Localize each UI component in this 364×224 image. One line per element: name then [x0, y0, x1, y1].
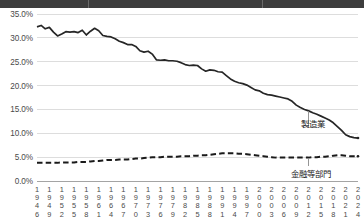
series-lines [37, 25, 359, 162]
x-axis-tick-label: 1982 [180, 186, 190, 219]
x-axis-tick-label: 2018 [328, 186, 338, 219]
chart-container: 0.0%5.0%10.0%15.0%20.0%25.0%30.0%35.0% 1… [0, 0, 364, 224]
x-axis-tick-label: 1967 [118, 186, 128, 219]
x-axis-tick-label: 2000 [254, 186, 264, 219]
x-axis-tick-label: 1952 [57, 186, 67, 219]
x-axis-tick-label: 1946 [32, 186, 42, 219]
x-axis-tick-label: 1970 [131, 186, 141, 219]
x-axis-tick-label: 2021 [341, 186, 351, 219]
x-axis-tick-label: 2015 [316, 186, 326, 219]
annotation-finance: 金融等部門 [291, 167, 331, 179]
x-axis-tick-label: 1958 [81, 186, 91, 219]
x-axis-tick-label: 2024 [353, 186, 363, 219]
x-axis-tick-label: 1997 [242, 186, 252, 219]
series-line-finance [37, 153, 358, 163]
x-axis-tick-label: 1994 [230, 186, 240, 219]
x-axis-tick-label: 2003 [267, 186, 277, 219]
series-endpoint-finance [357, 155, 360, 158]
x-axis-tick-labels: 1946194919521955195819611964196719701973… [0, 186, 364, 224]
x-axis-tick-label: 1949 [44, 186, 54, 219]
x-axis-tick-label: 1955 [69, 186, 79, 219]
x-axis-tick-label: 1973 [143, 186, 153, 219]
annotation-manufacturing: 製造業 [301, 117, 325, 129]
series-endpoint-manufacturing [357, 137, 360, 140]
x-axis-tick-label: 1976 [155, 186, 165, 219]
x-axis-tick-label: 2006 [279, 186, 289, 219]
x-axis-tick-label: 1979 [168, 186, 178, 219]
x-axis-tick-label: 1961 [94, 186, 104, 219]
x-axis-tick-label: 2009 [291, 186, 301, 219]
x-axis-tick-label: 1991 [217, 186, 227, 219]
x-axis-tick-label: 1988 [205, 186, 215, 219]
x-axis-tick-label: 2012 [304, 186, 314, 219]
x-axis-tick-label: 1964 [106, 186, 116, 219]
x-axis-tick-label: 1985 [193, 186, 203, 219]
